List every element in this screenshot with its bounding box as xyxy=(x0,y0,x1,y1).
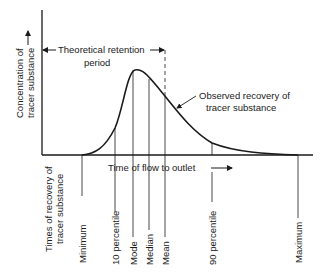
curve-pointer-arrow xyxy=(177,96,196,108)
curve-label: Observed recovery of xyxy=(199,90,290,101)
times-label: Times of recovery of xyxy=(43,166,54,252)
y-axis-label: Concentration of xyxy=(14,48,25,118)
p10-label: 10 percentile xyxy=(110,211,121,265)
x-axis-label: Time of flow to outlet xyxy=(108,162,196,173)
retention-label: Theoretical retention xyxy=(58,44,145,55)
times-label-2: tracer substance xyxy=(54,174,65,244)
p90-label: 90 percentile xyxy=(207,211,218,265)
tracer-recovery-diagram: Theoretical retention period Observed re… xyxy=(0,0,320,275)
minimum-label: Minimum xyxy=(77,224,88,263)
mode-label: Mode xyxy=(128,241,139,265)
retention-label-2: period xyxy=(84,57,110,68)
median-label: Median xyxy=(144,234,155,265)
y-axis-label-2: tracer substance xyxy=(25,48,36,118)
mean-label: Mean xyxy=(160,241,171,265)
curve-label-2: tracer substance xyxy=(206,102,276,113)
maximum-label: Maximum xyxy=(293,222,304,263)
